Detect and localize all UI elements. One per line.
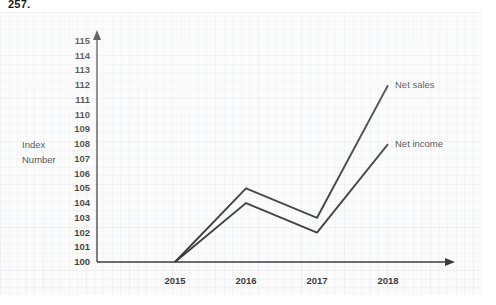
series-label: Net sales: [395, 80, 435, 90]
series-label: Net income: [395, 139, 443, 149]
plot-surface: [0, 12, 482, 295]
page-number: 257.: [8, 0, 30, 10]
figure-panel: Index Number 115114113112111110109108107…: [0, 12, 482, 295]
y-axis-arrow-icon: [93, 30, 101, 40]
x-axis-arrow-icon: [445, 258, 455, 266]
line-chart: Index Number 115114113112111110109108107…: [0, 12, 482, 295]
data-series-group: [175, 85, 388, 262]
